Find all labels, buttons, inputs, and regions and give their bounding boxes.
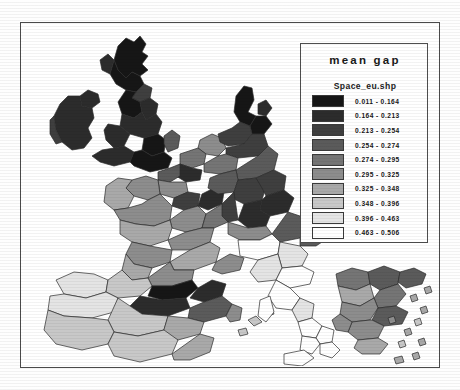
legend-row: 0.254 - 0.274 <box>312 138 424 153</box>
map-legend: mean gap Space_eu.shp 0.011 - 0.1640.164… <box>300 43 428 243</box>
legend-row: 0.274 - 0.295 <box>312 152 424 167</box>
legend-label: 0.213 - 0.254 <box>355 127 400 134</box>
legend-swatch <box>312 227 344 239</box>
legend-title: mean gap <box>301 54 429 66</box>
legend-swatch <box>312 212 344 224</box>
legend-row: 0.011 - 0.164 <box>312 94 424 109</box>
legend-swatch <box>312 197 344 209</box>
legend-swatch <box>312 168 344 180</box>
figure-container: mean gap Space_eu.shp 0.011 - 0.1640.164… <box>0 0 460 390</box>
legend-label: 0.254 - 0.274 <box>355 142 400 149</box>
legend-label: 0.011 - 0.164 <box>355 98 399 105</box>
legend-swatch <box>312 124 344 136</box>
legend-row: 0.164 - 0.213 <box>312 109 424 124</box>
legend-row: 0.348 - 0.396 <box>312 196 424 211</box>
legend-label: 0.164 - 0.213 <box>355 112 400 119</box>
legend-row: 0.213 - 0.254 <box>312 123 424 138</box>
legend-label: 0.325 - 0.348 <box>355 185 400 192</box>
legend-label: 0.295 - 0.325 <box>355 171 400 178</box>
legend-label: 0.463 - 0.506 <box>355 229 400 236</box>
legend-row: 0.295 - 0.325 <box>312 167 424 182</box>
legend-swatch <box>312 183 344 195</box>
legend-class-list: 0.011 - 0.1640.164 - 0.2130.213 - 0.2540… <box>312 94 424 240</box>
legend-label: 0.348 - 0.396 <box>355 200 400 207</box>
legend-row: 0.396 - 0.463 <box>312 211 424 226</box>
legend-row: 0.463 - 0.506 <box>312 225 424 240</box>
legend-label: 0.396 - 0.463 <box>355 215 400 222</box>
legend-swatch <box>312 110 344 122</box>
legend-swatch <box>312 139 344 151</box>
legend-swatch <box>312 154 344 166</box>
legend-label: 0.274 - 0.295 <box>355 156 400 163</box>
legend-subtitle: Space_eu.shp <box>301 81 429 91</box>
legend-swatch <box>312 95 344 107</box>
legend-row: 0.325 - 0.348 <box>312 182 424 197</box>
